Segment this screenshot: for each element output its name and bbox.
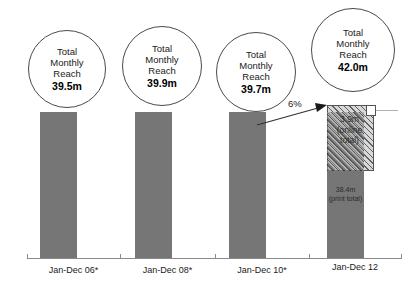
- axis-tick-3: [309, 254, 310, 259]
- category-label-3: Jan-Dec 10*: [215, 265, 309, 275]
- bubble-line-1: Total: [57, 46, 77, 57]
- bubble-line-1: Total: [246, 49, 266, 60]
- axis-tick-end: [401, 254, 402, 259]
- category-label-2: Jan-Dec 08*: [120, 265, 215, 275]
- reach-bubble-2: Total Monthly Reach 39.9m: [122, 26, 202, 106]
- bar-chart: Total Monthly Reach 39.5m Total Monthly …: [0, 0, 415, 293]
- bubble-value: 39.7m: [241, 83, 271, 95]
- callout-tab: [366, 105, 376, 116]
- bubble-line-2: Monthly: [239, 60, 272, 71]
- bubble-line-3: Reach: [339, 49, 366, 60]
- bubble-value: 39.9m: [147, 77, 177, 89]
- reach-bubble-1: Total Monthly Reach 39.5m: [28, 30, 106, 108]
- bubble-line-3: Reach: [242, 71, 269, 82]
- axis-tick-1: [120, 254, 121, 259]
- callout-leader-line: [376, 110, 398, 111]
- bubble-line-2: Monthly: [145, 54, 178, 65]
- axis-tick-start: [27, 254, 28, 259]
- bubble-line-2: Monthly: [336, 38, 369, 49]
- axis-tick-2: [215, 254, 216, 259]
- bubble-value: 42.0m: [338, 61, 368, 73]
- bubble-line-2: Monthly: [50, 57, 83, 68]
- bubble-line-3: Reach: [53, 68, 80, 79]
- category-label-4: Jan-Dec 12: [309, 262, 401, 272]
- category-label-1: Jan-Dec 06*: [27, 265, 120, 275]
- bar-jan-dec-08: [135, 112, 172, 258]
- bubble-line-1: Total: [343, 27, 363, 38]
- bubble-line-1: Total: [152, 43, 172, 54]
- bar-jan-dec-10: [229, 112, 266, 258]
- bubble-line-3: Reach: [148, 65, 175, 76]
- reach-bubble-4: Total Monthly Reach 42.0m: [311, 8, 395, 92]
- bubble-value: 39.5m: [52, 80, 82, 92]
- bar-jan-dec-06: [40, 112, 77, 258]
- growth-arrow-icon: [255, 100, 335, 130]
